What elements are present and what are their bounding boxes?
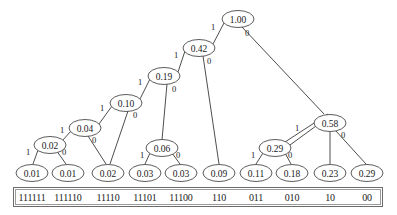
node-probability-label: 0.03 bbox=[137, 169, 154, 179]
tree-edge bbox=[203, 56, 219, 164]
tree-internal-node[interactable]: 0.06 bbox=[146, 140, 178, 157]
tree-edge bbox=[242, 27, 324, 114]
node-probability-label: 0.03 bbox=[173, 169, 190, 179]
node-probability-label: 0.11 bbox=[248, 169, 265, 179]
code-word-label: 11110 bbox=[97, 192, 120, 203]
tree-internal-node[interactable]: 0.04 bbox=[69, 120, 101, 137]
edge-bit-label: 0 bbox=[92, 135, 96, 145]
node-probability-label: 0.42 bbox=[191, 44, 208, 54]
tree-leaf-node[interactable]: 0.02 bbox=[92, 165, 124, 182]
tree-internal-node[interactable]: 1.00 bbox=[222, 11, 254, 28]
tree-diagram-canvas: 101010101010101010 1.000.420.190.100.040… bbox=[0, 0, 397, 215]
tree-edge bbox=[256, 153, 263, 164]
code-word-label: 010 bbox=[285, 192, 299, 203]
node-probability-label: 0.18 bbox=[284, 169, 301, 179]
node-probability-label: 0.23 bbox=[322, 169, 339, 179]
tree-leaf-node[interactable]: 0.18 bbox=[276, 165, 308, 182]
tree-internal-node[interactable]: 0.42 bbox=[183, 40, 215, 57]
tree-leaf-node[interactable]: 0.01 bbox=[52, 165, 84, 182]
tree-edge bbox=[33, 150, 38, 164]
tree-edge bbox=[110, 111, 128, 164]
edge-bit-label: 1 bbox=[26, 147, 30, 157]
edge-bit-label: 0 bbox=[341, 130, 345, 140]
node-probability-label: 1.00 bbox=[230, 15, 247, 25]
code-word-label: 011 bbox=[249, 192, 263, 203]
code-word-label: 11101 bbox=[133, 192, 156, 203]
node-probability-label: 0.19 bbox=[156, 72, 173, 82]
node-probability-label: 0.29 bbox=[359, 169, 376, 179]
code-word-label: 10 bbox=[325, 192, 335, 203]
node-probability-label: 0.09 bbox=[211, 169, 228, 179]
edge-bit-label: 1 bbox=[251, 150, 255, 160]
code-word-label: 11100 bbox=[169, 192, 192, 203]
edge-bit-label: 0 bbox=[245, 28, 249, 38]
tree-leaf-node[interactable]: 0.11 bbox=[240, 165, 272, 182]
node-probability-label: 0.01 bbox=[24, 169, 41, 179]
tree-internal-node[interactable]: 0.02 bbox=[34, 137, 66, 154]
tree-internal-node[interactable]: 0.19 bbox=[148, 68, 180, 85]
tree-leaf-node[interactable]: 0.03 bbox=[129, 165, 161, 182]
edge-bit-label: 1 bbox=[100, 103, 104, 113]
edge-bit-label: 0 bbox=[207, 56, 211, 66]
edge-bit-label: 1 bbox=[174, 50, 178, 60]
tree-internal-node[interactable]: 0.58 bbox=[314, 115, 346, 132]
edge-bit-label: 1 bbox=[211, 22, 215, 32]
edge-bit-label: 0 bbox=[133, 110, 137, 120]
node-probability-label: 0.04 bbox=[77, 124, 94, 134]
node-probability-label: 0.02 bbox=[42, 141, 59, 151]
tree-leaf-node[interactable]: 0.23 bbox=[314, 165, 346, 182]
tree-edge bbox=[162, 84, 167, 140]
tree-leaf-node[interactable]: 0.29 bbox=[351, 165, 383, 182]
edge-bit-label: 1 bbox=[295, 123, 299, 133]
edge-bit-label: 1 bbox=[60, 125, 64, 135]
node-probability-label: 0.58 bbox=[322, 119, 339, 129]
tree-internal-node[interactable]: 0.29 bbox=[259, 140, 291, 157]
edge-bit-label: 1 bbox=[138, 77, 142, 87]
tree-edge bbox=[88, 136, 106, 164]
tree-leaf-node[interactable]: 0.09 bbox=[203, 165, 235, 182]
node-probability-label: 0.02 bbox=[100, 169, 117, 179]
code-word-label: 00 bbox=[362, 192, 372, 203]
code-word-label: 111111 bbox=[19, 192, 46, 203]
tree-nodes-group: 1.000.420.190.100.040.020.060.580.290.01… bbox=[16, 11, 383, 182]
tree-edge bbox=[178, 51, 185, 72]
edge-bit-label: 0 bbox=[172, 84, 176, 94]
code-word-label: 110 bbox=[212, 192, 226, 203]
node-probability-label: 0.01 bbox=[60, 169, 77, 179]
node-probability-label: 0.10 bbox=[118, 99, 135, 109]
tree-internal-node[interactable]: 0.10 bbox=[110, 95, 142, 112]
code-word-label: 111110 bbox=[54, 192, 81, 203]
tree-edge bbox=[145, 153, 150, 164]
huffman-tree-figure: 101010101010101010 1.000.420.190.100.040… bbox=[0, 0, 397, 215]
edge-bit-label: 1 bbox=[140, 150, 144, 160]
node-probability-label: 0.06 bbox=[154, 144, 171, 154]
tree-leaf-node[interactable]: 0.03 bbox=[165, 165, 197, 182]
node-probability-label: 0.29 bbox=[267, 144, 284, 154]
tree-leaf-node[interactable]: 0.01 bbox=[16, 165, 48, 182]
